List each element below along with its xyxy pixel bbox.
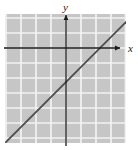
coordinate-plane-figure: x y xyxy=(0,0,138,150)
x-axis-label: x xyxy=(127,42,133,54)
y-axis-label: y xyxy=(62,1,68,13)
line-graph-svg: x y xyxy=(0,0,138,150)
